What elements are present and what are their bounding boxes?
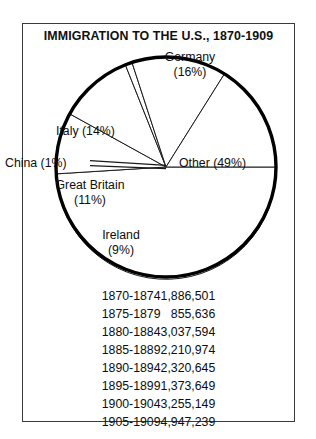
pie-label-germany-percent: (16%) — [140, 65, 240, 80]
table-cell-count: 4,947,239 — [161, 414, 216, 432]
table-cell-period: 1900-1904 — [102, 396, 161, 414]
table-row: 1880-18843,037,594 — [102, 324, 216, 342]
table-cell-period: 1885-1889 — [102, 342, 161, 360]
pie-label-great-britain: Great Britain (11%) — [36, 178, 144, 208]
pie-label-ireland: Ireland (9%) — [88, 228, 154, 258]
pie-label-germany-name: Germany — [140, 50, 240, 65]
pie-label-ireland-name: Ireland — [88, 228, 154, 243]
immigration-pie-chart-figure: IMMIGRATION TO THE U.S., 1870-1909 Germ — [0, 0, 316, 439]
pie-label-italy: Italy (14%) — [56, 124, 115, 139]
pie-label-ireland-percent: (9%) — [88, 243, 154, 258]
pie-label-germany: Germany (16%) — [140, 50, 240, 80]
table-cell-period: 1890-1894 — [102, 360, 161, 378]
table-cell-count: 2,210,974 — [161, 342, 216, 360]
table-cell-period: 1880-1884 — [102, 324, 161, 342]
pie-label-other: Other (49%) — [179, 156, 246, 171]
table-cell-count: 3,037,594 — [161, 324, 216, 342]
table-row: 1885-18892,210,974 — [102, 342, 216, 360]
pie-label-great-britain-percent: (11%) — [36, 193, 144, 208]
immigration-data-table: 1870-18741,886,5011875-1879855,6361880-1… — [102, 288, 216, 432]
immigration-data-table-area: 1870-18741,886,5011875-1879855,6361880-1… — [22, 288, 295, 432]
table-row: 1905-19094,947,239 — [102, 414, 216, 432]
table-cell-count: 3,255,149 — [161, 396, 216, 414]
table-row: 1895-18991,373,649 — [102, 378, 216, 396]
table-row: 1890-18942,320,645 — [102, 360, 216, 378]
table-body: 1870-18741,886,5011875-1879855,6361880-1… — [102, 288, 216, 432]
table-cell-count: 2,320,645 — [161, 360, 216, 378]
table-row: 1875-1879855,636 — [102, 306, 216, 324]
table-row: 1870-18741,886,501 — [102, 288, 216, 306]
pie-label-great-britain-name: Great Britain — [36, 178, 144, 193]
table-cell-period: 1895-1899 — [102, 378, 161, 396]
table-cell-period: 1905-1909 — [102, 414, 161, 432]
table-cell-count: 1,886,501 — [161, 288, 216, 306]
table-cell-period: 1875-1879 — [102, 306, 161, 324]
pie-label-china: China (1%) — [5, 156, 67, 171]
table-cell-count: 1,373,649 — [161, 378, 216, 396]
table-cell-period: 1870-1874 — [102, 288, 161, 306]
table-cell-count: 855,636 — [161, 306, 216, 324]
table-row: 1900-19043,255,149 — [102, 396, 216, 414]
